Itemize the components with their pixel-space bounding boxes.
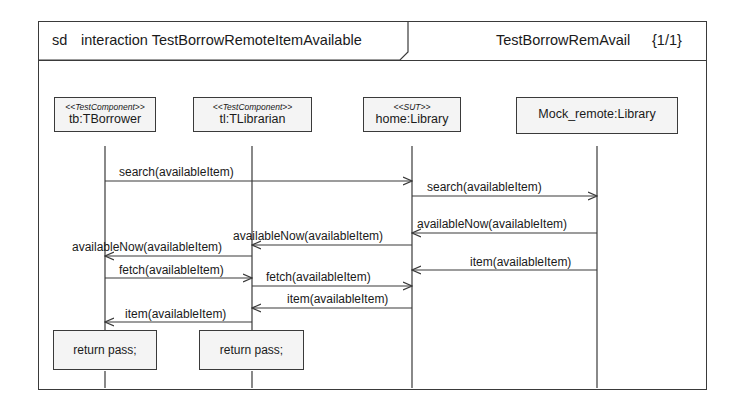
msg-label-3: availableNow(availableItem) [233,229,383,243]
lifeline-name: Mock_remote:Library [517,107,677,122]
frame-page-label: {1/1} [652,32,682,48]
lifeline-name: tl:TLibrarian [194,112,311,127]
msg-label-5: item(availableItem) [470,255,571,269]
msg-label-4: availableNow(availableItem) [72,240,222,254]
msg-label-2: availableNow(availableItem) [417,217,567,231]
action-text: return pass; [220,343,283,357]
stereotype-label: <<TestComponent>> [194,102,311,112]
msg-label-9: item(availableItem) [125,307,226,321]
msg-label-7: fetch(availableItem) [266,270,371,284]
action-text: return pass; [73,343,136,357]
lifeline-head-tb[interactable]: <<TestComponent>> tb:TBorrower [54,97,156,132]
action-return-pass-tl: return pass; [199,330,304,370]
frame-right-label: TestBorrowRemAvail [496,32,630,48]
frame-title: interaction TestBorrowRemoteItemAvailabl… [81,32,362,48]
lifeline-head-home[interactable]: <<SUT>> home:Library [363,97,461,132]
msg-label-0: search(availableItem) [119,165,234,179]
msg-label-1: search(availableItem) [427,180,542,194]
action-return-pass-tb: return pass; [53,330,157,370]
lifeline-name: tb:TBorrower [55,112,155,127]
lifeline-head-tl[interactable]: <<TestComponent>> tl:TLibrarian [193,97,312,132]
msg-label-8: item(availableItem) [287,292,388,306]
lifeline-name: home:Library [364,112,460,127]
stereotype-label: <<TestComponent>> [55,102,155,112]
stereotype-label: <<SUT>> [364,102,460,112]
msg-label-6: fetch(availableItem) [119,263,224,277]
frame-kind-label: sd [52,32,67,48]
lifeline-head-mock[interactable]: Mock_remote:Library [516,97,678,134]
